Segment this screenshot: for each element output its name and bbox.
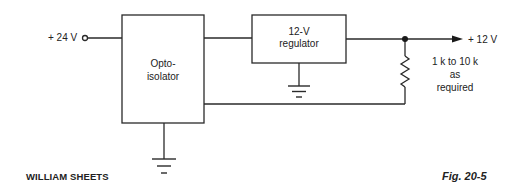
input-terminal-icon	[83, 36, 88, 41]
resistor-note-line3: required	[420, 82, 490, 94]
resistor-note-line1: 1 k to 10 k	[420, 56, 490, 68]
opto-ground-icon	[152, 159, 176, 173]
optoisolator-label-line2: isolator	[132, 71, 194, 83]
author-credit: WILLIAM SHEETS	[26, 171, 109, 182]
output-arrow-icon	[452, 36, 463, 43]
circuit-diagram: + 24 V Opto- isolator 12-V regulator + 1…	[0, 0, 518, 193]
schematic-lines	[0, 0, 518, 193]
junction-dot-icon	[402, 36, 408, 42]
regulator-ground-icon	[288, 86, 310, 97]
output-voltage-label: + 12 V	[468, 34, 497, 46]
regulator-label-line2: regulator	[262, 38, 336, 50]
resistor-note-line2: as	[420, 69, 490, 81]
resistor-icon	[401, 56, 409, 87]
optoisolator-label-line1: Opto-	[132, 58, 194, 70]
input-voltage-label: + 24 V	[48, 32, 77, 44]
regulator-label-line1: 12-V	[262, 26, 336, 38]
figure-label: Fig. 20-5	[442, 170, 487, 182]
